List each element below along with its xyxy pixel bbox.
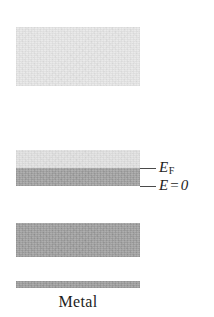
texture-overlay bbox=[16, 223, 140, 257]
leader-line-fermi-level bbox=[140, 168, 156, 169]
band-occupied-conduction bbox=[16, 168, 140, 186]
label-fermi-level: EF bbox=[159, 160, 174, 176]
label-energy-zero: E=0 bbox=[159, 178, 188, 193]
texture-overlay bbox=[16, 27, 140, 86]
figure-caption: Metal bbox=[16, 293, 140, 311]
label-fermi-subscript: F bbox=[169, 165, 175, 176]
energy-band-diagram: EF E=0 Metal bbox=[0, 0, 214, 317]
label-energy-value: 0 bbox=[181, 177, 189, 193]
texture-overlay bbox=[16, 150, 140, 168]
band-lower-filled bbox=[16, 223, 140, 257]
label-fermi-symbol: E bbox=[159, 159, 168, 175]
label-energy-symbol: E bbox=[159, 177, 168, 193]
band-upper-vacuum bbox=[16, 27, 140, 86]
texture-overlay bbox=[16, 281, 140, 288]
leader-line-energy-zero bbox=[140, 186, 156, 187]
band-core-level bbox=[16, 281, 140, 288]
label-energy-equals: = bbox=[170, 177, 178, 193]
band-unoccupied-states bbox=[16, 150, 140, 168]
texture-overlay bbox=[16, 168, 140, 186]
